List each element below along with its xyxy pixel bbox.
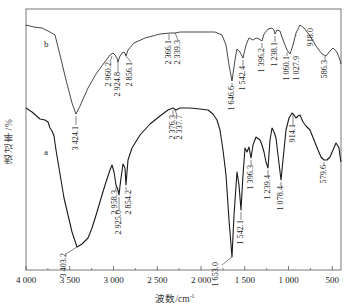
peak-labels-layer: ba3 424.12 960.22 924.82 856.12 366.12 3…	[44, 28, 329, 287]
peak-label-b: 1 646.6	[227, 86, 236, 111]
peak-label-a: 1 653.0	[211, 262, 220, 287]
x-tick-label: 3 000	[103, 275, 124, 285]
peak-label-b: 2 960.2	[104, 62, 113, 87]
peak-label-b: 1 542.4	[238, 66, 247, 91]
peak-label-a: 2 925.0	[114, 210, 123, 235]
peak-leader-line	[175, 110, 177, 115]
x-tick-label: 1 500	[235, 275, 256, 285]
peak-label-a: 1 396.3	[246, 165, 255, 190]
x-axis-title: 波数/cm-1	[0, 291, 350, 305]
peak-leader-line	[222, 257, 232, 265]
x-tick-label: 4 000	[16, 275, 37, 285]
peak-label-b: 1 027.9	[292, 56, 301, 81]
peak-leader-line	[126, 56, 131, 62]
peak-label-a: 914.1	[288, 124, 297, 142]
peak-label-b: 1 396.2	[257, 48, 266, 73]
peak-leader-line	[66, 247, 77, 254]
x-tick-label: 500	[326, 275, 340, 285]
peak-label-a: 579.6	[319, 165, 328, 183]
peak-label-b: 918.0	[306, 28, 315, 46]
peak-label-a: 2 337.7	[175, 115, 184, 140]
peak-label-b: 3 424.1	[71, 126, 80, 151]
series-letter-a: a	[44, 147, 48, 157]
peak-label-b: 586.3	[320, 60, 329, 78]
peak-label-a: 1 542.1	[236, 220, 245, 245]
peak-label-b: 1 238.1	[270, 42, 279, 67]
x-axis-title-text: 波数/cm	[155, 294, 189, 304]
y-axis-title: 透过率/%	[2, 118, 16, 164]
ftir-spectrum-chart: 4 0003 5003 0002 5002 0001 5001 000500 b…	[0, 0, 350, 307]
peak-label-a: 1 239.4	[263, 175, 272, 200]
peak-label-a: 2 854.2	[124, 190, 133, 215]
peak-label-a: 1 078.4	[276, 186, 285, 211]
peak-label-b: 2 339.3	[173, 40, 182, 65]
peak-label-b: 2 924.8	[113, 72, 122, 97]
peak-label-b: 2 366.1	[164, 40, 173, 65]
peak-label-b: 2 856.1	[125, 62, 134, 87]
peak-label-b: 1 060.1	[282, 56, 291, 81]
peak-label-a: 3 403.2	[59, 253, 68, 278]
peak-leader-line	[175, 33, 178, 40]
x-axis-title-exponent: -1	[190, 293, 195, 299]
x-tick-label: 2 000	[191, 275, 212, 285]
series-letter-b: b	[44, 39, 49, 49]
x-tick-label: 1 000	[278, 275, 299, 285]
peak-leader-line	[110, 56, 112, 62]
x-tick-label: 2 500	[147, 275, 168, 285]
